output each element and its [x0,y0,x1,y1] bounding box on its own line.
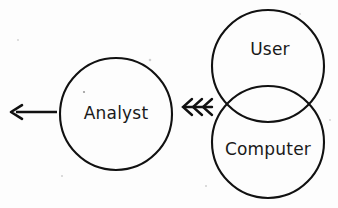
diagram-canvas: Analyst receives information from overla… [0,0,338,208]
input-triple-chevron [183,99,212,115]
venn-flow-diagram: Analyst receives information from overla… [0,0,338,208]
user-label: User [250,39,290,59]
user-circle [212,10,324,122]
output-arrow [11,105,57,119]
node-analyst[interactable]: Analyst [60,58,172,170]
analyst-label: Analyst [84,103,149,123]
node-computer[interactable]: Computer [212,86,324,198]
computer-label: Computer [225,139,311,159]
node-user[interactable]: User [212,10,324,122]
